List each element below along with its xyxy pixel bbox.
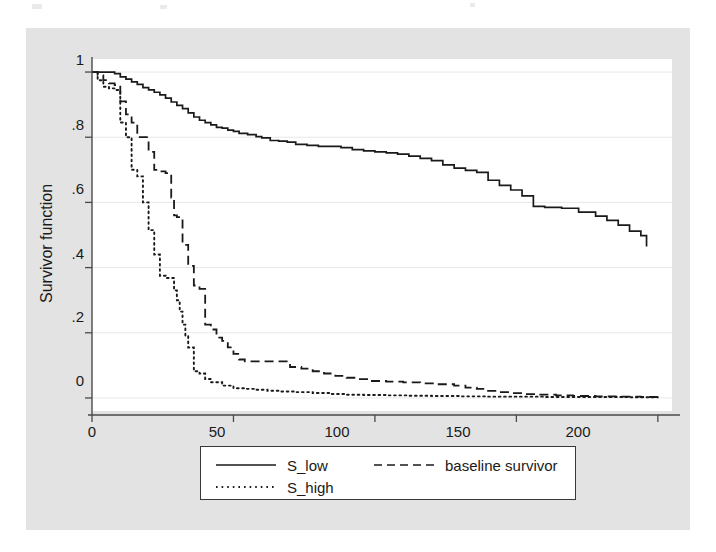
- legend-label-s-high: S_high: [287, 479, 334, 496]
- x-tick-label-200: 200: [564, 423, 592, 440]
- legend-key-dashed: [373, 458, 435, 472]
- series-line-s-low: [92, 72, 647, 246]
- x-tick-label-0: 0: [78, 423, 106, 440]
- series-line-baseline-survivor: [92, 72, 658, 397]
- x-tick-label-150: 150: [444, 423, 472, 440]
- y-tick-label-1: 1: [40, 51, 84, 68]
- x-tick-label-100: 100: [323, 423, 351, 440]
- figure-panel: 1 .8 .6 .4 .2 0 Survivor function 0 50 1…: [26, 28, 690, 530]
- y-tick-label-08: .8: [40, 116, 84, 133]
- survival-curves-svg: [92, 59, 672, 411]
- scan-artifacts: [0, 0, 716, 26]
- plot-region: [92, 59, 672, 411]
- legend-entry-s-high[interactable]: S_high: [215, 476, 334, 498]
- x-tick-label-50: 50: [203, 423, 231, 440]
- y-axis-title: Survivor function: [38, 184, 56, 303]
- legend-label-s-low: S_low: [287, 457, 328, 474]
- legend-entry-baseline-survivor[interactable]: baseline survivor: [373, 454, 558, 476]
- y-tick-label-02: .2: [40, 308, 84, 325]
- y-tick-label-0: 0: [40, 372, 84, 389]
- legend: S_low baseline survivor S_high: [200, 446, 576, 500]
- series-line-s-high: [92, 72, 658, 397]
- legend-key-solid: [215, 458, 277, 472]
- legend-entry-s-low[interactable]: S_low: [215, 454, 328, 476]
- legend-key-dotted: [215, 480, 277, 494]
- legend-label-baseline-survivor: baseline survivor: [445, 457, 558, 474]
